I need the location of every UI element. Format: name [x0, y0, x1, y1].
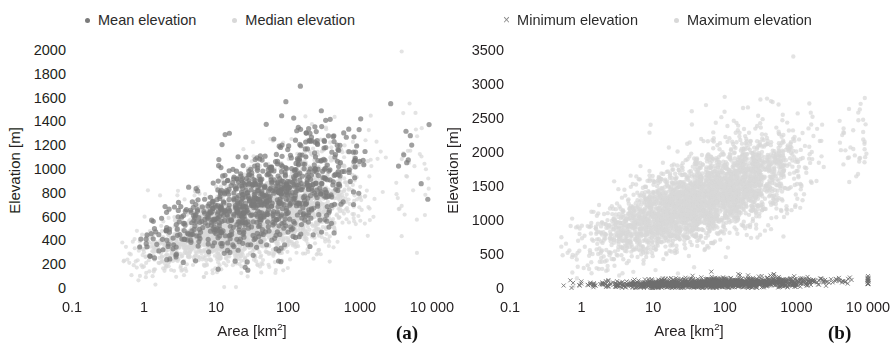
x-axis-label-b: Area [km2] — [510, 320, 868, 342]
x-tick-label: 10 — [645, 298, 661, 316]
x-tick-label: 10 — [208, 298, 224, 316]
x-axis-ticks-b: 0.1110100100010 000 — [438, 298, 876, 316]
x-tick-label: 1000 — [780, 298, 812, 316]
x-tick-label: 1000 — [344, 298, 376, 316]
x-axis-ticks-a: 0.1110100100010 000 — [0, 298, 438, 316]
plot-panel-b: Elevation [m] 05001000150020002500300035… — [438, 0, 876, 351]
panel-tag-a: (a) — [396, 322, 418, 344]
x-tick-label: 100 — [276, 298, 300, 316]
x-tick-label: 0.1 — [500, 298, 520, 316]
plot-panel-a: Elevation [m] 02004006008001000120014001… — [0, 0, 438, 351]
panel-b: × Minimum elevation Maximum elevation El… — [438, 0, 876, 351]
panel-tag-b: (b) — [828, 322, 851, 344]
x-tick-label: 100 — [713, 298, 737, 316]
x-tick-label: 10 000 — [846, 298, 890, 316]
x-tick-label: 1 — [140, 298, 148, 316]
x-axis-label-a: Area [km2] — [72, 320, 432, 342]
x-tick-label: 0.1 — [62, 298, 82, 316]
x-tick-label: 1 — [578, 298, 586, 316]
panel-a: Mean elevation Median elevation Elevatio… — [0, 0, 438, 351]
